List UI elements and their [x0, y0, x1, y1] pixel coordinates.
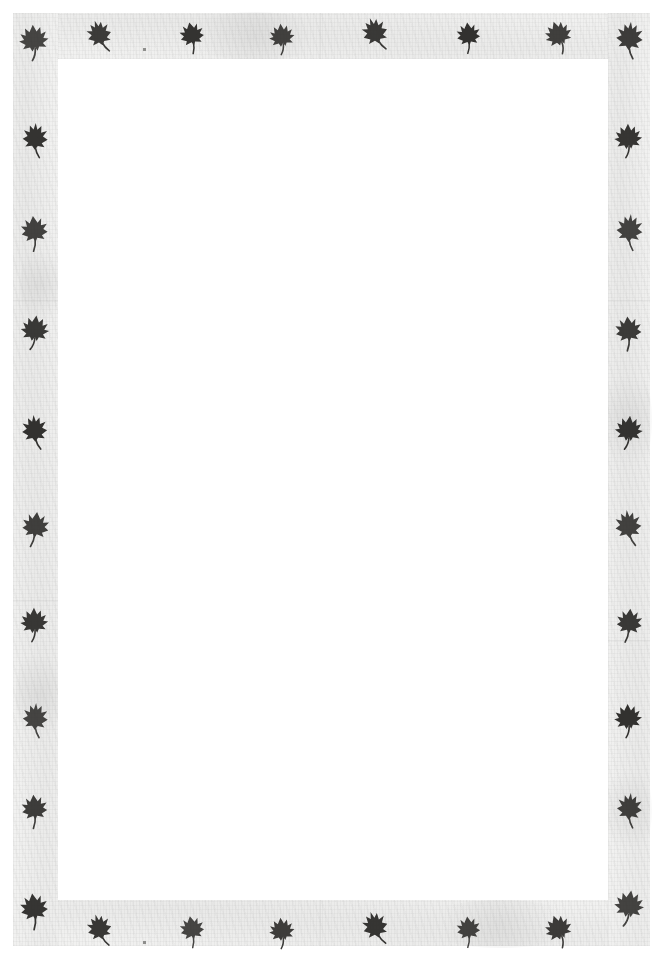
- bordered-page: [0, 0, 661, 960]
- leaf-icon: [610, 506, 648, 549]
- leaf-icon: [174, 910, 210, 951]
- leaf-icon: [611, 211, 648, 254]
- leaf-icon: [18, 700, 53, 740]
- leaf-icon: [265, 913, 300, 952]
- leaf-icon: [610, 311, 647, 353]
- corner-bottom-right: [610, 886, 649, 931]
- leaf-icon: [18, 120, 52, 160]
- leaf-icon: [16, 210, 54, 253]
- leaf-icon: [611, 120, 646, 160]
- leaf-icon: [17, 790, 53, 831]
- leaf-icon: [17, 604, 52, 644]
- leaf-icon: [265, 19, 300, 58]
- corner-bottom-left: [14, 887, 54, 933]
- leaf-icon: [452, 911, 485, 949]
- leaf-icon: [17, 311, 53, 352]
- leaf-icon: [612, 412, 647, 452]
- paper-seam: [13, 600, 58, 601]
- leaf-icon: [452, 17, 485, 55]
- paper-seam: [608, 300, 650, 301]
- paper-seam: [320, 900, 321, 946]
- corner-top-left: [15, 20, 54, 64]
- leaf-icon: [611, 790, 647, 831]
- paper-seam: [13, 300, 58, 301]
- leaf-icon: [612, 604, 647, 645]
- leaf-icon: [16, 506, 54, 549]
- ink-speck-top: [143, 48, 146, 51]
- leaf-icon: [611, 700, 646, 741]
- corner-top-right: [610, 18, 648, 62]
- ink-speck-bottom: [143, 941, 146, 944]
- blank-content-field[interactable]: [58, 59, 608, 900]
- leaf-icon: [17, 412, 52, 453]
- paper-seam: [320, 13, 321, 59]
